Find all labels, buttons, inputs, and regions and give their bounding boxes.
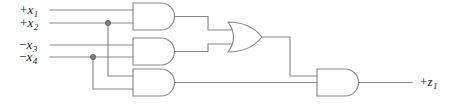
output-sign-z1: + — [420, 74, 428, 89]
gate-and-1 — [133, 3, 175, 30]
junction-dot-x4 — [90, 54, 95, 59]
input-sub-x4: 4 — [33, 56, 38, 66]
wire-or1-to-and4 — [262, 37, 317, 76]
input-var-x2: x — [28, 15, 34, 30]
input-label-x4: −x4 — [19, 49, 37, 65]
circuit-schematic — [0, 0, 463, 107]
gate-and-3 — [133, 69, 175, 96]
input-label-x2: +x2 — [20, 15, 38, 31]
wire-and2-to-or1 — [175, 44, 233, 52]
junction-dot-x2 — [105, 20, 110, 25]
output-sub-z1: 1 — [433, 81, 438, 91]
circuit-diagram-canvas: +x1 +x2 −x3 −x4 +z1 — [0, 0, 463, 107]
input-sign-x4: − — [19, 49, 27, 64]
gate-and-2 — [133, 38, 175, 65]
wire-branch-x4-to-and3 — [93, 57, 133, 89]
input-var-x4: x — [27, 49, 33, 64]
wire-and1-to-or1 — [175, 17, 233, 31]
input-sign-x2: + — [20, 15, 28, 30]
input-sub-x2: 2 — [34, 22, 39, 32]
gate-and-4 — [317, 69, 359, 96]
gate-or-1 — [228, 22, 262, 52]
wire-branch-x2-to-and3 — [108, 23, 133, 76]
output-label-z1: +z1 — [420, 74, 438, 90]
